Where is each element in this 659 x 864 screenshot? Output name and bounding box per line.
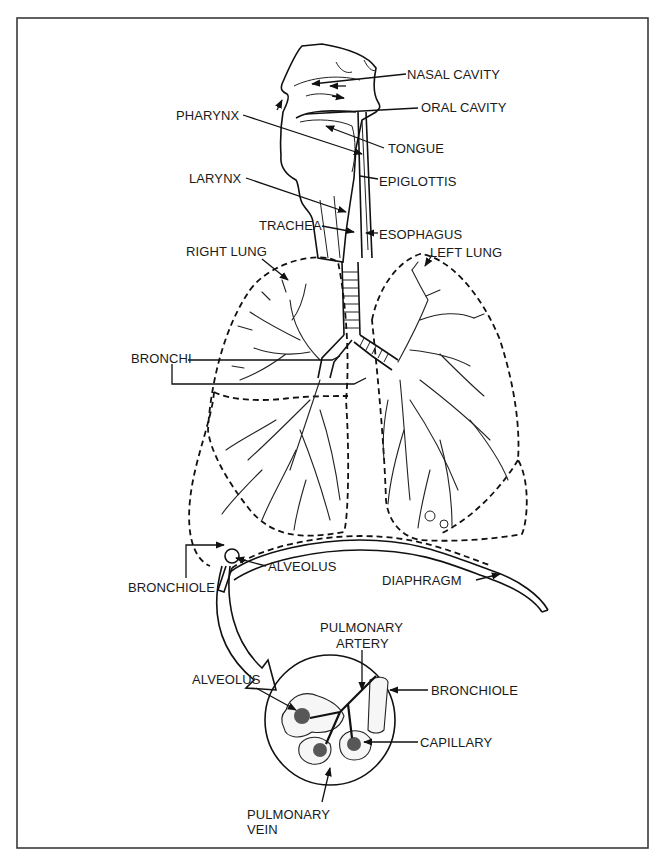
label-pharynx: PHARYNX	[176, 108, 240, 123]
label-oral-cavity: ORAL CAVITY	[421, 100, 507, 115]
label-right-lung: RIGHT LUNG	[186, 244, 267, 259]
label-alveolus: ALVEOLUS	[268, 559, 337, 574]
label-left-lung: LEFT LUNG	[430, 245, 502, 260]
left-lung-drawing	[372, 254, 527, 541]
label-pulmonary-artery-1: PULMONARY	[320, 620, 403, 635]
label-inset-bronchiole: BRONCHIOLE	[431, 683, 518, 698]
label-esophagus: ESOPHAGUS	[379, 227, 462, 242]
alveolus-inset	[265, 655, 395, 785]
label-inset-alveolus: ALVEOLUS	[192, 672, 261, 687]
label-pulmonary-vein-2: VEIN	[247, 822, 278, 837]
right-lung-drawing	[189, 257, 348, 566]
label-bronchiole: BRONCHIOLE	[128, 580, 215, 595]
label-epiglottis: EPIGLOTTIS	[379, 174, 457, 189]
label-diaphragm: DIAPHRAGM	[382, 573, 462, 588]
label-pulmonary-artery-2: ARTERY	[336, 636, 389, 651]
label-capillary: CAPILLARY	[420, 735, 492, 750]
label-pulmonary-vein-1: PULMONARY	[247, 807, 330, 822]
label-nasal-cavity: NASAL CAVITY	[407, 67, 500, 82]
respiratory-system-diagram: NASAL CAVITY ORAL CAVITY PHARYNX TONGUE …	[0, 0, 659, 864]
label-trachea: TRACHEA	[259, 218, 322, 233]
label-bronchi: BRONCHI	[131, 351, 192, 366]
alveolus-marker	[225, 549, 239, 563]
label-tongue: TONGUE	[388, 141, 444, 156]
label-larynx: LARYNX	[189, 171, 242, 186]
